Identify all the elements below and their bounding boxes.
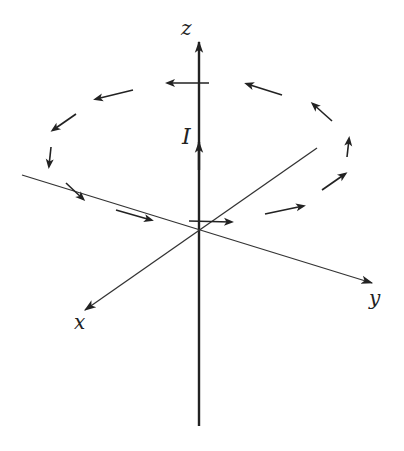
field-arrow-icon (53, 114, 76, 130)
x-axis (85, 148, 317, 310)
magnetic-field-diagram: z I x y (0, 0, 404, 451)
y-axis-label: y (369, 288, 380, 308)
field-arrow-icon (313, 104, 332, 121)
z-axis-label: z (181, 18, 192, 38)
diagram-canvas (0, 0, 404, 451)
field-arrow-icon (265, 206, 303, 214)
field-arrow-icon (49, 147, 51, 166)
field-arrow-icon (96, 90, 133, 99)
field-arrow-icon (116, 210, 151, 220)
field-arrow-icon (347, 139, 349, 157)
field-arrow-icon (66, 183, 83, 199)
current-label: I (182, 126, 191, 148)
field-arrow-icon (322, 174, 345, 190)
x-axis-label: x (74, 312, 85, 332)
field-arrow-icon (247, 84, 282, 95)
field-arrow-icon (189, 221, 231, 222)
